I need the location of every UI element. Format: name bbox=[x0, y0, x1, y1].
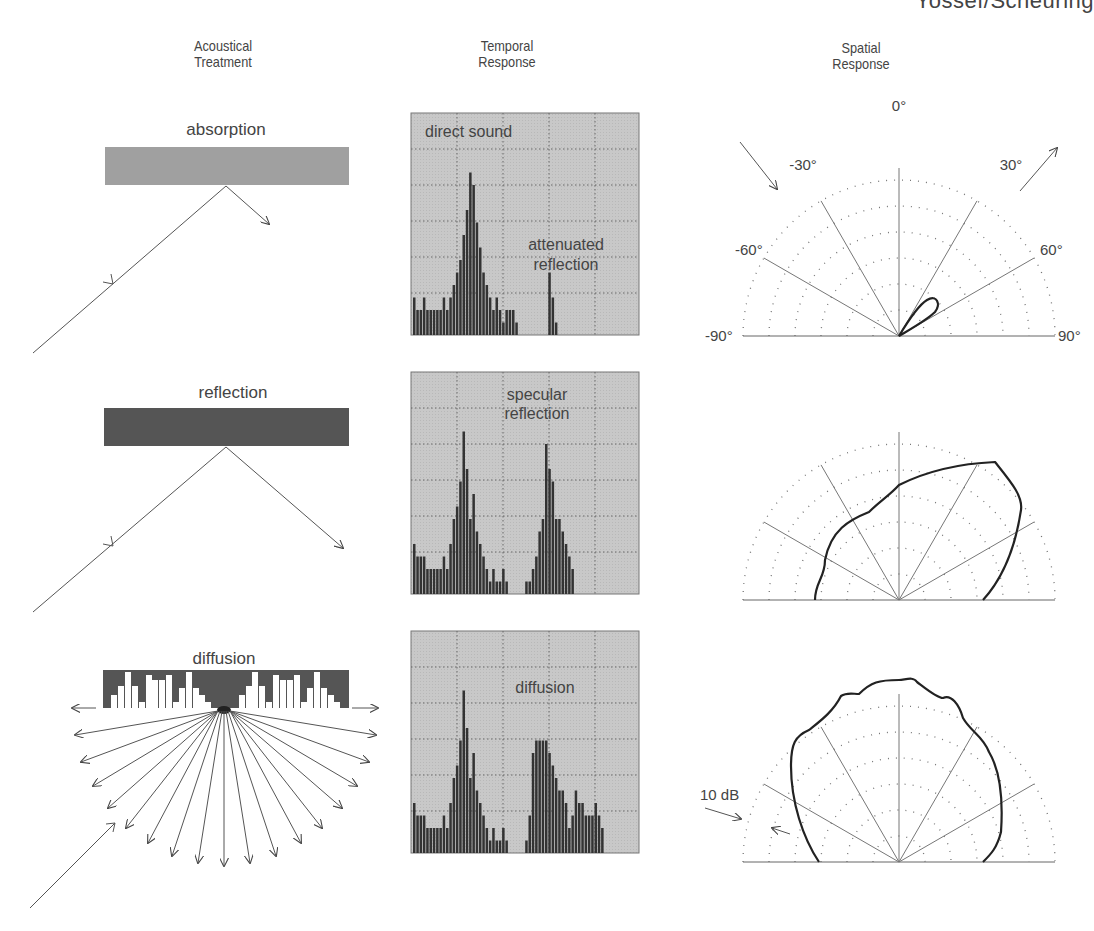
treatment-diffusion: diffusion bbox=[30, 649, 378, 908]
temporal-panel bbox=[411, 631, 639, 853]
incident-ray bbox=[30, 823, 115, 908]
polar-plot bbox=[743, 679, 1055, 862]
temporal-label-specular: specular bbox=[507, 386, 568, 403]
reflected-ray bbox=[226, 186, 269, 224]
angle-label-60: 60° bbox=[1040, 241, 1063, 258]
treatment-label: reflection bbox=[199, 383, 268, 402]
scale-arrow-icon bbox=[705, 808, 741, 819]
temporal-panels bbox=[411, 113, 639, 853]
treatment-label: diffusion bbox=[192, 649, 255, 668]
angle-label-minus60: -60° bbox=[735, 241, 763, 258]
angle-label-0: 0° bbox=[892, 97, 906, 114]
temporal-label-attenuated: attenuated bbox=[528, 236, 604, 253]
scale-label-10db: 10 dB bbox=[700, 786, 739, 803]
diagram-canvas: absorption reflection diffusion bbox=[0, 0, 1094, 931]
incident-ray bbox=[33, 186, 226, 353]
scale-arrow-icon bbox=[772, 828, 790, 834]
temporal-label-reflection: reflection bbox=[505, 405, 570, 422]
ray-arrow-icon bbox=[103, 274, 113, 284]
temporal-label-diffusion: diffusion bbox=[515, 679, 574, 696]
treatment-label: absorption bbox=[186, 120, 265, 139]
angle-label-minus90: -90° bbox=[705, 327, 733, 344]
angle-label-minus30: -30° bbox=[789, 156, 817, 173]
reflected-ray bbox=[226, 447, 343, 548]
spatial-polar-plots bbox=[743, 168, 1055, 862]
absorber-panel bbox=[105, 147, 349, 185]
angle-label-30: 30° bbox=[1000, 156, 1023, 173]
temporal-label-reflection: reflection bbox=[534, 256, 599, 273]
polar-plot bbox=[743, 168, 1055, 336]
angle-label-90: 90° bbox=[1058, 327, 1081, 344]
incident-ray bbox=[33, 447, 226, 612]
reflected-direction-arrow-icon bbox=[1020, 148, 1057, 191]
temporal-label-direct-sound: direct sound bbox=[425, 123, 512, 140]
treatment-reflection: reflection bbox=[33, 383, 349, 612]
reflector-panel bbox=[104, 408, 349, 446]
treatment-absorption: absorption bbox=[33, 120, 349, 353]
polar-plot bbox=[743, 432, 1055, 600]
temporal-panel bbox=[411, 113, 639, 335]
incident-direction-arrow-icon bbox=[740, 142, 777, 189]
scattered-rays bbox=[72, 708, 378, 866]
